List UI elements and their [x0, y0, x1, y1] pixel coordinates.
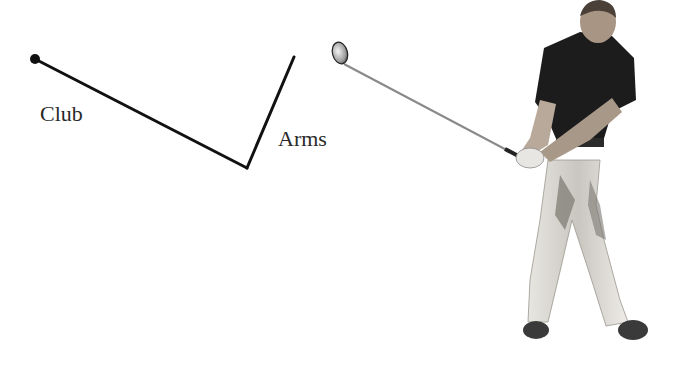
- golfer-illustration: [0, 0, 688, 365]
- golfer-hands: [516, 148, 544, 168]
- diagram-canvas: Club Arms: [0, 0, 688, 365]
- right-shoe: [618, 320, 648, 340]
- club-shaft: [344, 64, 522, 158]
- left-shoe: [523, 321, 549, 339]
- golfer-pants: [528, 160, 628, 326]
- club-head-icon: [330, 40, 350, 65]
